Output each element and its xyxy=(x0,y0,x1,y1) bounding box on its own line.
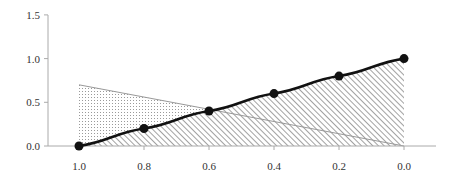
data-point-marker xyxy=(140,124,149,133)
y-tick-label: 0.5 xyxy=(26,96,40,108)
x-tick-label: 1.0 xyxy=(72,160,86,172)
data-point-marker xyxy=(335,72,344,81)
x-ticks: 1.00.80.60.40.20.0 xyxy=(72,146,411,172)
data-point-marker xyxy=(270,89,279,98)
x-tick-label: 0.6 xyxy=(202,160,216,172)
y-tick-label: 1.0 xyxy=(26,53,40,65)
y-tick-label: 1.5 xyxy=(26,9,40,21)
x-tick-label: 0.4 xyxy=(267,160,281,172)
data-point-marker xyxy=(75,142,84,151)
y-tick-label: 0.0 xyxy=(26,140,40,152)
data-point-marker xyxy=(400,54,409,63)
x-tick-label: 0.0 xyxy=(397,160,411,172)
x-tick-label: 0.8 xyxy=(137,160,151,172)
x-tick-label: 0.2 xyxy=(332,160,346,172)
y-ticks: 0.00.51.01.5 xyxy=(26,9,48,152)
data-point-marker xyxy=(205,107,214,116)
chart: 0.00.51.01.5 1.00.80.60.40.20.0 xyxy=(0,0,461,179)
